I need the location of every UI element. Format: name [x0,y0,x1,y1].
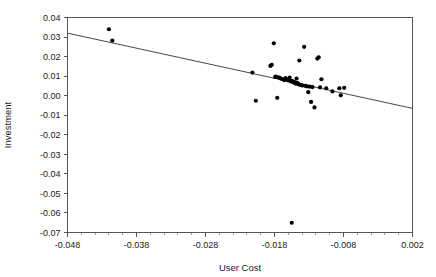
y-tick-label: -0.04 [40,169,61,179]
y-tick-label: 0.03 [43,32,61,42]
x-tick-label: -0.048 [55,240,81,250]
scatter-point [302,45,306,49]
y-tick-label: 0.04 [43,13,61,23]
x-tick-label: -0.038 [124,240,150,250]
scatter-point [275,96,279,100]
axis-spines [68,18,413,233]
y-axis-ticks [64,18,68,233]
scatter-point [330,89,334,93]
scatter-point [324,86,328,90]
scatter-point [290,221,294,225]
scatter-point [272,41,276,45]
scatter-point [339,93,343,97]
least-squares-fit-line [68,33,413,108]
scatter-point [337,86,341,90]
y-tick-label: -0.06 [40,208,61,218]
axis-border [68,18,413,233]
scatter-point [297,58,301,62]
x-axis-tick-labels: -0.048-0.038-0.028-0.018-0.0080.002 [55,240,424,250]
x-tick-label: -0.028 [193,240,219,250]
data-points [107,27,346,225]
scatter-point [310,85,314,89]
scatter-point [312,105,316,109]
x-axis-ticks [68,233,413,238]
x-axis-title: User Cost [219,262,262,273]
y-tick-label: 0.00 [43,91,61,101]
scatter-point [250,71,254,75]
chart-canvas: -0.07-0.06-0.05-0.04-0.03-0.02-0.010.000… [0,0,436,277]
scatter-point [319,77,323,81]
scatter-point [294,76,298,80]
scatter-point [254,99,258,103]
scatter-point [309,100,313,104]
x-tick-label: -0.008 [331,240,357,250]
y-tick-label: 0.02 [43,52,61,62]
scatter-point [318,85,322,89]
x-tick-label: 0.002 [401,240,424,250]
scatter-plot-figure: -0.07-0.06-0.05-0.04-0.03-0.02-0.010.000… [0,0,436,277]
y-tick-label: 0.01 [43,71,61,81]
y-tick-label: -0.02 [40,130,61,140]
y-tick-label: -0.05 [40,189,61,199]
y-tick-label: -0.07 [40,228,61,238]
plot-frame [68,18,413,233]
y-tick-label: -0.01 [40,110,61,120]
x-tick-label: -0.018 [262,240,288,250]
scatter-point [270,63,274,67]
scatter-point [110,38,114,42]
scatter-point [317,55,321,59]
regression-line [68,33,413,108]
scatter-point [107,27,111,31]
scatter-point [342,86,346,90]
y-axis-tick-labels: -0.07-0.06-0.05-0.04-0.03-0.02-0.010.000… [40,13,61,238]
y-tick-label: -0.03 [40,150,61,160]
y-axis-title: Investment [2,101,13,148]
scatter-point [306,90,310,94]
